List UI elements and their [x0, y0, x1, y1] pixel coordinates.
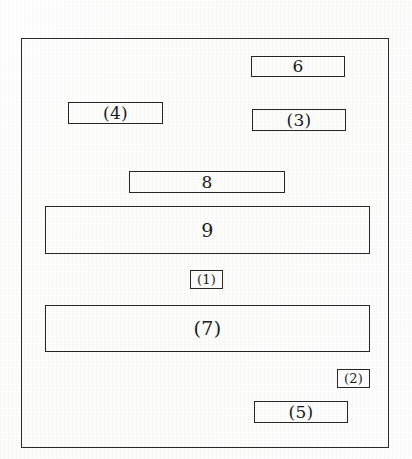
block-1: (1) — [190, 270, 223, 289]
block-2-label: (2) — [344, 372, 363, 385]
block-9: 9 — [45, 206, 370, 254]
block-2: (2) — [337, 369, 370, 388]
block-6: 6 — [251, 56, 345, 77]
block-7: (7) — [45, 305, 370, 352]
block-8-label: 8 — [201, 174, 212, 191]
block-1-label: (1) — [197, 273, 216, 286]
block-4-label: (4) — [103, 105, 128, 122]
block-5: (5) — [254, 401, 348, 423]
block-7-label: (7) — [193, 319, 221, 338]
block-6-label: 6 — [292, 58, 303, 75]
patent-figure: 6 (4) (3) 8 9 (1) (7) (2) (5) — [0, 0, 412, 459]
block-9-label: 9 — [201, 221, 213, 240]
block-8: 8 — [129, 171, 285, 193]
block-5-label: (5) — [288, 404, 313, 421]
block-3-label: (3) — [286, 112, 311, 129]
block-4: (4) — [68, 102, 163, 124]
block-3: (3) — [252, 109, 346, 131]
